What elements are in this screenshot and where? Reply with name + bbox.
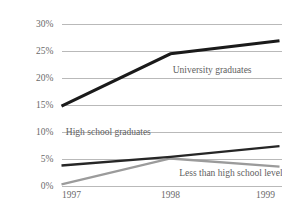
- series-label-less-than-high-school-level: Less than high school level: [179, 168, 282, 178]
- series-label-high-school-graduates: High school graduates: [66, 127, 151, 137]
- y-axis-tick-label: 15%: [36, 100, 54, 110]
- y-axis-tick-label: 30%: [36, 19, 54, 29]
- y-axis-tick-label: 10%: [36, 127, 54, 137]
- x-axis-tick-label: 1998: [161, 190, 180, 200]
- x-axis-tick-label: 1997: [62, 190, 81, 200]
- y-axis-tick-label: 5%: [41, 154, 54, 164]
- x-axis-tick-label: 1999: [256, 190, 275, 200]
- chart-canvas: 0%5%10%15%20%25%30% 199719981999 Univers…: [0, 0, 282, 211]
- y-axis-tick-label: 0%: [41, 181, 54, 191]
- series-labels-group: University graduatesHigh school graduate…: [66, 65, 282, 178]
- xtick-labels-group: 199719981999: [62, 190, 275, 200]
- series-label-university-graduates: University graduates: [173, 65, 252, 75]
- series-line-high-school-graduates: [62, 146, 280, 165]
- line-chart-figure: 0%5%10%15%20%25%30% 199719981999 Univers…: [0, 0, 282, 211]
- y-axis-tick-label: 25%: [36, 46, 54, 56]
- series-lines-group: [62, 41, 280, 185]
- ytick-labels-group: 0%5%10%15%20%25%30%: [36, 19, 54, 191]
- y-axis-tick-label: 20%: [36, 73, 54, 83]
